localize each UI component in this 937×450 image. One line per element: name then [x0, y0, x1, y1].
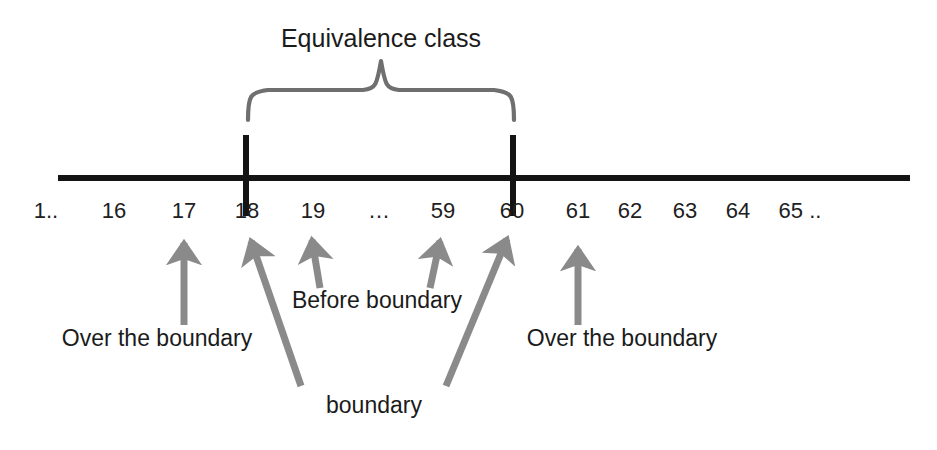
label-boundary: boundary [326, 394, 422, 417]
axis-label-17: 17 [172, 200, 196, 222]
axis-label-64: 64 [726, 200, 750, 222]
arrow-to-19 [312, 240, 320, 288]
axis-label-60: 60 [500, 200, 524, 222]
axis-label-61: 61 [566, 200, 590, 222]
equivalence-class-diagram: Equivalence class 1.. 16 17 18 19 … 59 6… [0, 0, 937, 450]
arrow-to-59 [430, 241, 440, 288]
axis-label-1: 1.. [34, 200, 58, 222]
arrow-to-18 [251, 241, 301, 386]
label-over-the-boundary-right: Over the boundary [527, 327, 718, 350]
axis-label-ellipsis: … [368, 200, 390, 222]
axis-label-16: 16 [102, 200, 126, 222]
axis-label-18: 18 [235, 200, 259, 222]
axis-label-65: 65 .. [779, 200, 822, 222]
equivalence-class-title: Equivalence class [281, 26, 481, 51]
label-before-boundary: Before boundary [292, 289, 462, 312]
equivalence-class-brace [248, 61, 514, 120]
axis-label-19: 19 [301, 200, 325, 222]
axis-label-63: 63 [673, 200, 697, 222]
axis-label-59: 59 [431, 200, 455, 222]
axis-label-62: 62 [618, 200, 642, 222]
label-over-the-boundary-left: Over the boundary [62, 327, 253, 350]
diagram-canvas [0, 0, 937, 450]
